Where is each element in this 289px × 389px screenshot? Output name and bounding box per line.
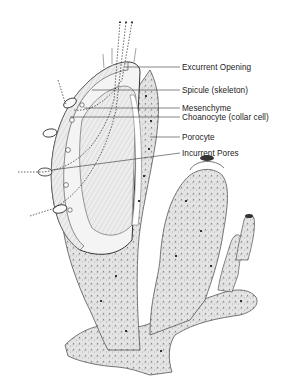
sponge-diagram: Excurrent Opening Spicule (skeleton) Mes…: [0, 0, 289, 389]
label-mesenchyme: Mesenchyme: [182, 104, 231, 113]
label-incurrent-pores: Incurrent Pores: [182, 149, 239, 158]
label-spicule: Spicule (skeleton): [182, 86, 248, 95]
sponge-illustration: [0, 0, 289, 389]
label-choanocyte: Choanocyte (collar cell): [182, 113, 269, 122]
label-excurrent-opening: Excurrent Opening: [182, 63, 251, 72]
label-porocyte: Porocyte: [182, 133, 215, 142]
cutaway-section: [38, 48, 141, 254]
